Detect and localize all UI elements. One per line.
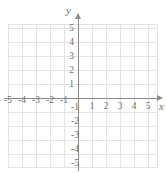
grid-line-horizontal: [8, 56, 158, 57]
y-tick-label-neg2: ‑2: [71, 116, 89, 126]
grid-line-horizontal: [8, 140, 158, 141]
y-tick-label-5: 5: [56, 23, 74, 33]
x-tick-label-neg4: ‑4: [15, 95, 29, 105]
x-tick-label-5: 5: [141, 101, 155, 111]
x-axis-label: x: [159, 101, 164, 112]
y-tick-label-3: 3: [56, 51, 74, 61]
y-tick-label-4: 4: [56, 37, 74, 47]
grid-line-horizontal: [8, 126, 158, 127]
y-tick-label-neg4: ‑4: [71, 144, 89, 154]
x-tick-label-neg1: ‑1: [57, 95, 71, 105]
y-axis-arrow-icon: [75, 13, 81, 19]
x-tick-label-neg2: ‑2: [43, 95, 57, 105]
grid-line-horizontal: [8, 112, 158, 113]
x-tick-label-3: 3: [113, 101, 127, 111]
y-tick-label-neg5: ‑5: [71, 158, 89, 168]
x-tick-label-neg5: ‑5: [1, 95, 15, 105]
grid-line-horizontal: [8, 42, 158, 43]
coordinate-plane: y x ‑5 ‑4 ‑3 ‑2 ‑1 1 2 3 4 5 5 4 3 2 1 ‑…: [0, 0, 166, 173]
x-tick-label-neg3: ‑3: [29, 95, 43, 105]
y-tick-label-1: 1: [56, 79, 74, 89]
y-tick-label-neg3: ‑3: [71, 130, 89, 140]
grid-line-vertical: [92, 24, 93, 167]
grid-line-horizontal: [8, 70, 158, 71]
x-tick-label-2: 2: [99, 101, 113, 111]
y-tick-label-2: 2: [56, 65, 74, 75]
grid-line-horizontal: [8, 84, 158, 85]
x-tick-label-4: 4: [127, 101, 141, 111]
grid-line-vertical: [120, 24, 121, 167]
y-tick-label-neg1: ‑1: [71, 102, 89, 112]
grid-line-horizontal: [8, 24, 158, 25]
grid-line-horizontal: [8, 28, 158, 29]
y-axis-label: y: [66, 5, 71, 16]
grid-line-vertical: [148, 24, 149, 167]
grid-line-horizontal: [8, 154, 158, 155]
grid-line-vertical: [134, 24, 135, 167]
grid-line-vertical: [106, 24, 107, 167]
